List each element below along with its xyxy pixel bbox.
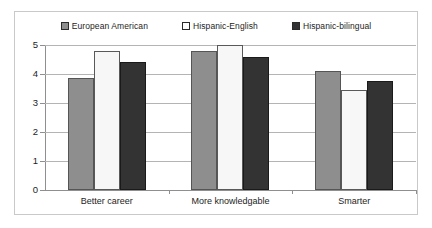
bar-group — [45, 45, 169, 190]
legend-label-series-2: Hispanic-bilingual — [303, 21, 371, 31]
y-tick-label-4: 4 — [26, 69, 38, 79]
bar — [120, 62, 146, 190]
x-axis-separator-tick — [292, 190, 293, 194]
bar — [217, 45, 243, 190]
x-axis-category-label: Better career — [45, 196, 169, 207]
legend-swatch-icon-series-0 — [61, 22, 69, 30]
bar — [341, 90, 367, 190]
bar — [191, 51, 217, 190]
chart-legend: European American Hispanic-English Hispa… — [14, 18, 418, 34]
legend-item-european-american: European American — [61, 21, 148, 31]
x-axis-category-label: More knowledgable — [169, 196, 293, 207]
y-tick-mark-0 — [40, 190, 45, 191]
bar — [243, 57, 269, 190]
bar-group — [292, 45, 416, 190]
x-axis-separator-tick — [416, 190, 417, 194]
x-axis-category-label: Smarter — [292, 196, 416, 207]
chart-figure: European American Hispanic-English Hispa… — [0, 0, 432, 228]
x-axis-separator-tick — [169, 190, 170, 194]
y-tick-label-2: 2 — [26, 127, 38, 137]
legend-item-hispanic-english: Hispanic-English — [182, 21, 258, 31]
bar-group — [169, 45, 293, 190]
y-tick-label-3: 3 — [26, 98, 38, 108]
legend-swatch-icon-series-1 — [182, 22, 190, 30]
legend-item-hispanic-bilingual: Hispanic-bilingual — [292, 21, 371, 31]
legend-swatch-icon-series-2 — [292, 22, 300, 30]
y-tick-label-0: 0 — [26, 185, 38, 195]
bar — [367, 81, 393, 190]
bar — [68, 78, 94, 190]
x-axis-line — [45, 190, 416, 191]
y-tick-label-5: 5 — [26, 40, 38, 50]
y-tick-label-1: 1 — [26, 156, 38, 166]
plot-area — [45, 45, 416, 190]
bar — [315, 71, 341, 190]
legend-label-series-0: European American — [72, 21, 148, 31]
legend-label-series-1: Hispanic-English — [193, 21, 258, 31]
bar — [94, 51, 120, 190]
